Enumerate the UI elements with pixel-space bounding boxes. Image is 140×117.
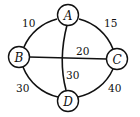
node-label-B: B	[14, 51, 24, 65]
node-A: A	[58, 5, 79, 26]
node-B: B	[9, 47, 30, 68]
node-label-C: C	[112, 53, 121, 67]
weight-A-B: 10	[22, 17, 35, 29]
graph-diagram: 10 15 20 30 30 40 A B C D	[0, 0, 140, 117]
node-C: C	[107, 49, 128, 70]
weight-A-C: 15	[104, 17, 117, 29]
weight-B-D: 30	[16, 82, 29, 94]
node-D: D	[58, 91, 79, 112]
weight-B-C: 20	[76, 45, 89, 57]
graph-svg: 10 15 20 30 30 40 A B C D	[0, 0, 140, 117]
weight-C-D: 40	[108, 82, 121, 94]
edge-B-C	[29, 57, 107, 59]
node-label-A: A	[63, 9, 73, 23]
node-label-D: D	[62, 95, 73, 109]
weight-A-D: 30	[66, 69, 79, 81]
